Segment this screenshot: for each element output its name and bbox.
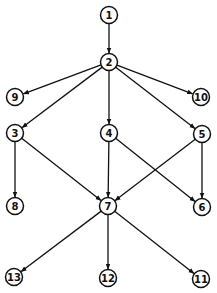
edge-4-to-7 bbox=[108, 141, 109, 197]
node-label: 13 bbox=[7, 272, 21, 283]
edge-2-to-9 bbox=[23, 65, 101, 94]
node-label: 2 bbox=[106, 57, 113, 68]
node-1: 1 bbox=[101, 7, 118, 24]
node-label: 9 bbox=[12, 92, 19, 103]
edge-3-to-7 bbox=[22, 138, 101, 200]
node-label: 8 bbox=[12, 201, 19, 212]
edge-7-to-11 bbox=[115, 211, 194, 273]
node-13: 13 bbox=[6, 269, 23, 286]
node-3: 3 bbox=[7, 125, 24, 142]
directed-graph: 12345678910111213 bbox=[0, 0, 217, 293]
node-10: 10 bbox=[193, 89, 210, 106]
node-5: 5 bbox=[194, 126, 211, 143]
node-label: 3 bbox=[12, 128, 19, 139]
edge-2-to-3 bbox=[22, 67, 102, 127]
node-8: 8 bbox=[7, 198, 24, 215]
node-label: 5 bbox=[199, 129, 206, 140]
node-2: 2 bbox=[101, 54, 118, 71]
edge-7-to-13 bbox=[21, 211, 101, 271]
node-12: 12 bbox=[100, 270, 117, 287]
edge-2-to-5 bbox=[116, 67, 195, 128]
node-6: 6 bbox=[194, 199, 211, 216]
node-9: 9 bbox=[7, 89, 24, 106]
node-label: 11 bbox=[194, 274, 208, 285]
node-label: 4 bbox=[106, 128, 113, 139]
node-label: 6 bbox=[199, 202, 206, 213]
node-label: 7 bbox=[105, 201, 112, 212]
node-7: 7 bbox=[100, 198, 117, 215]
node-4: 4 bbox=[101, 125, 118, 142]
node-label: 10 bbox=[194, 92, 208, 103]
node-label: 12 bbox=[101, 273, 115, 284]
node-11: 11 bbox=[193, 271, 210, 288]
edge-2-to-10 bbox=[117, 65, 193, 94]
node-label: 1 bbox=[106, 10, 113, 21]
